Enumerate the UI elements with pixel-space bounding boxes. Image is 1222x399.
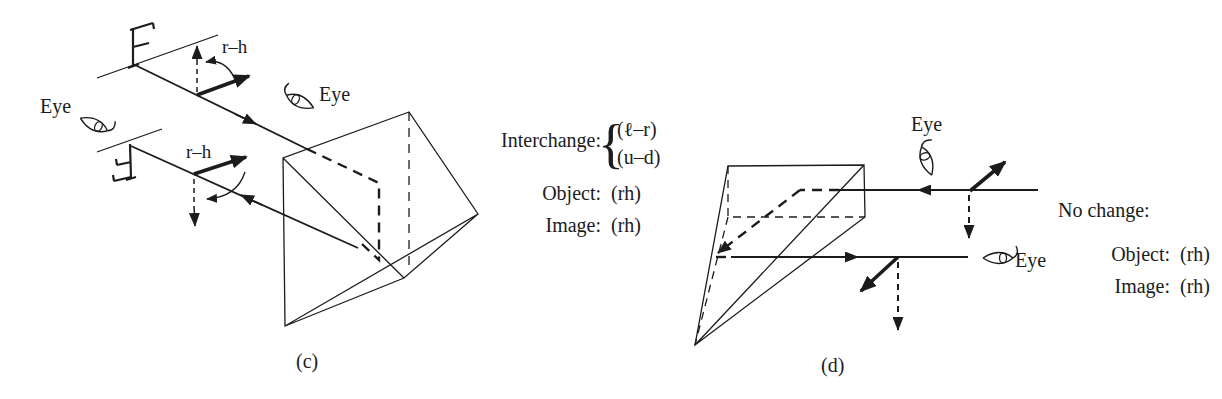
optics-prism-figure: r–h Eye Eye r–h bbox=[0, 0, 1222, 399]
figure-d: Eye Eye (d) No change: Object: (rh) Imag… bbox=[695, 113, 1210, 377]
eye-left-label: Eye bbox=[40, 95, 71, 118]
image-label: Image: bbox=[1114, 275, 1170, 298]
internal-ray-diagonal-dashed bbox=[718, 190, 800, 253]
rh-marker-incoming bbox=[969, 162, 1005, 238]
ray-object-arrowhead bbox=[235, 114, 256, 124]
caption-c: (c) bbox=[296, 350, 318, 373]
ray-image-arrowhead bbox=[241, 195, 262, 205]
prism-d-solid-edges bbox=[695, 165, 865, 345]
summary-block-d: No change: Object: (rh) Image: (rh) bbox=[1058, 199, 1210, 298]
rh-marker-object: r–h bbox=[197, 36, 249, 95]
down-reference-arrow bbox=[194, 206, 195, 226]
interchange-item-lr: (ℓ–r) bbox=[617, 118, 657, 141]
image-label: Image: bbox=[545, 214, 601, 237]
rh-vector-arrow bbox=[197, 76, 249, 95]
image-figure-f-rotated bbox=[113, 144, 136, 181]
image-value: (rh) bbox=[1180, 275, 1210, 298]
diagram-svg: r–h Eye Eye r–h bbox=[0, 0, 1222, 399]
no-change-label: No change: bbox=[1058, 199, 1150, 222]
interchange-item-ud: (u–d) bbox=[617, 146, 660, 169]
rotation-arc-arrow bbox=[206, 61, 236, 82]
eye-right-icon bbox=[983, 246, 1017, 264]
summary-block-c: Interchange: { (ℓ–r) (u–d) Object: (rh) … bbox=[501, 114, 660, 237]
caption-d: (d) bbox=[821, 354, 844, 377]
eye-top-icon bbox=[915, 139, 943, 177]
eye-right-label: Eye bbox=[1015, 249, 1046, 272]
interchange-label: Interchange: bbox=[501, 129, 601, 152]
object-label: Object: bbox=[1111, 243, 1170, 266]
prism-d bbox=[695, 165, 865, 345]
prism-c bbox=[283, 112, 478, 326]
object-value: (rh) bbox=[611, 182, 641, 205]
object-baseline bbox=[97, 35, 218, 78]
ray-object-to-prism bbox=[135, 65, 307, 149]
figure-c: r–h Eye Eye r–h bbox=[40, 23, 660, 373]
eye-top-icon bbox=[280, 82, 319, 112]
object-value: (rh) bbox=[1180, 243, 1210, 266]
rh-vector-arrow bbox=[861, 257, 898, 291]
rh-label-object: r–h bbox=[222, 36, 248, 57]
prism-c-solid-edges bbox=[283, 112, 478, 326]
object-figure-f bbox=[128, 23, 154, 68]
rh-label-image: r–h bbox=[186, 141, 212, 162]
rh-vector-arrow bbox=[970, 162, 1005, 191]
image-value: (rh) bbox=[611, 214, 641, 237]
rh-marker-outgoing bbox=[861, 257, 898, 330]
object-label: Object: bbox=[542, 182, 601, 205]
eye-top-label: Eye bbox=[911, 113, 942, 136]
eye-left-icon bbox=[78, 107, 117, 137]
eye-top-label: Eye bbox=[319, 83, 350, 106]
